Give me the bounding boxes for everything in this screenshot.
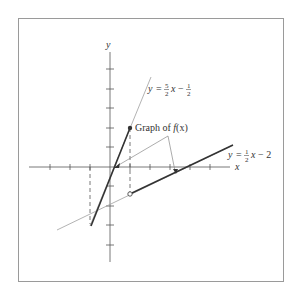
svg-text:y: y (227, 149, 233, 160)
svg-text:1: 1 (187, 82, 191, 90)
svg-text:=: = (236, 149, 242, 160)
filled-endpoint (128, 126, 132, 130)
svg-text:2: 2 (187, 90, 191, 98)
figure-frame (19, 19, 284, 282)
svg-text:− 2: − 2 (258, 149, 271, 160)
y-axis-label: y (105, 39, 111, 50)
svg-text:=: = (156, 83, 162, 94)
svg-text:x: x (170, 83, 176, 94)
svg-text:1: 1 (245, 148, 249, 156)
svg-text:y: y (147, 83, 153, 94)
callout-label: Graph of f(x) (135, 122, 188, 134)
label-line-half-x-minus-two: y = 1 2 x − 2 (227, 148, 271, 164)
label-line-five-halves: y = 5 2 x − 1 2 (147, 82, 191, 98)
svg-text:5: 5 (165, 82, 169, 90)
svg-text:2: 2 (165, 90, 169, 98)
svg-text:2: 2 (245, 156, 249, 164)
callout-leader (117, 136, 175, 171)
hollow-endpoint (128, 192, 132, 196)
x-axis-label: x (234, 161, 240, 172)
piecewise-function-figure: y x Graph of f(x) y = 5 2 x − 1 (0, 0, 296, 294)
f-segment-left (91, 128, 130, 226)
svg-text:−: − (178, 83, 184, 94)
svg-text:x: x (250, 149, 256, 160)
graph-canvas: y x Graph of f(x) y = 5 2 x − 1 (0, 0, 296, 294)
f-segment-right (132, 145, 233, 193)
